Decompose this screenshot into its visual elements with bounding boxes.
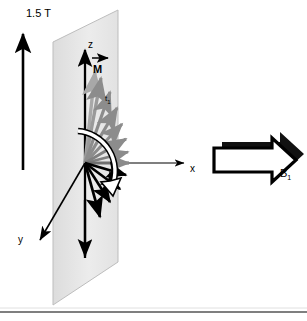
rf-field-subscript: 1 bbox=[287, 174, 291, 181]
z-axis-label: z bbox=[88, 40, 93, 50]
magnetization-label: M bbox=[93, 64, 102, 75]
y-axis-label: y bbox=[18, 235, 23, 245]
static-field-label: 1.5 T bbox=[26, 8, 51, 19]
time-step-subscript: 1 bbox=[107, 99, 110, 105]
nmr-magnetization-figure: 1.5 T z M t1 x y B1 bbox=[0, 0, 307, 321]
x-axis-label: x bbox=[190, 164, 195, 174]
time-step-label: t1 bbox=[105, 95, 111, 105]
diagram-canvas bbox=[0, 0, 307, 321]
rf-field-label: B1 bbox=[280, 168, 291, 181]
